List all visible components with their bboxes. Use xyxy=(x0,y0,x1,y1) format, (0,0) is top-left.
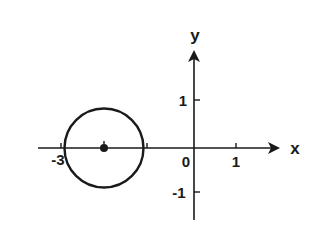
y-axis xyxy=(188,50,200,220)
x-axis-label: x xyxy=(290,139,300,158)
x-tick-label-1: 1 xyxy=(232,153,240,170)
y-tick-label-neg1: -1 xyxy=(172,184,185,201)
y-axis-label: y xyxy=(190,26,200,45)
y-tick-label-1: 1 xyxy=(179,92,187,109)
x-axis xyxy=(38,142,280,154)
coordinate-plane-figure: y x -3 0 1 1 -1 xyxy=(0,0,315,238)
diagram-canvas: y x -3 0 1 1 -1 xyxy=(0,0,315,238)
y-ticks xyxy=(194,100,200,192)
origin-label: 0 xyxy=(182,153,190,170)
x-tick-label-neg3: -3 xyxy=(51,151,64,168)
